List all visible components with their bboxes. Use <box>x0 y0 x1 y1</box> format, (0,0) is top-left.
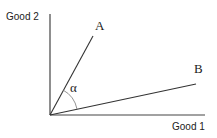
angle-label: α <box>70 80 77 95</box>
vector-b-label: B <box>194 61 203 76</box>
diagram-canvas: Good 2 Good 1 A B α <box>0 0 217 138</box>
vector-a <box>50 36 93 115</box>
vector-a-label: A <box>95 18 105 33</box>
x-axis-label: Good 1 <box>172 121 205 132</box>
y-axis-label: Good 2 <box>6 11 39 22</box>
